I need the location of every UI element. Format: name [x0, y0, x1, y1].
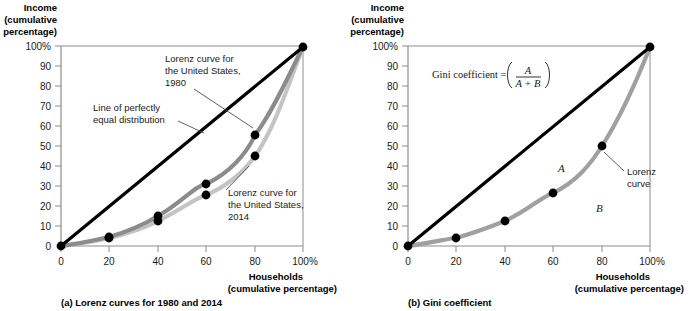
panel-a-y-tick-label: 30	[40, 181, 52, 192]
panel-a-lorenz-2014-annotation-line-1: Lorenz curve for	[228, 187, 297, 198]
data-point	[646, 43, 655, 52]
panel-a-y-tick-label: 60	[40, 121, 52, 132]
data-point	[299, 43, 308, 52]
data-point	[251, 131, 260, 140]
panel-b-y-tick-label: 30	[387, 181, 399, 192]
data-point	[154, 212, 163, 221]
panel-b-y-axis-title-line-2: (cumulative	[351, 14, 404, 25]
data-point	[105, 233, 114, 242]
panel-a-y-tick-label: 10	[40, 221, 52, 232]
panel-a-x-tick-label: 0	[58, 256, 64, 267]
panel-b-y-axis-title-line-1: Income	[371, 2, 404, 13]
panel-a-equality-annotation-line-1: Line of perfectly	[93, 102, 160, 113]
panel-b-y-tick-label: 0	[392, 241, 398, 252]
data-point	[549, 189, 558, 198]
data-point	[57, 242, 66, 251]
panel-a-y-axis-title-line-1: Income	[24, 2, 57, 13]
panel-b-x-tick-label: 100%	[639, 256, 665, 267]
panel-b-caption: (b) Gini coefficient	[408, 297, 492, 308]
panel-a-y-tick-label: 80	[40, 81, 52, 92]
panel-a-lorenz-1980-annotation-line-1: Lorenz curve for	[165, 53, 234, 64]
panel-a-y-tick-label: 70	[40, 101, 52, 112]
panel-a-y-tick-label: 20	[40, 201, 52, 212]
panel-a-x-axis-title-line-2: (cumulative percentage)	[228, 283, 337, 294]
panel-a-y-axis-title-line-2: (cumulative	[4, 14, 57, 25]
gini-formula-numerator: A	[524, 65, 532, 76]
panel-b-lorenz-annotation-line-2: curve	[627, 178, 650, 189]
panel-b-x-axis-title-line-1: Households	[596, 271, 650, 282]
panel-b-y-tick-label: 10	[387, 221, 399, 232]
panel-a-lorenz-1980-annotation-line-3: 1980	[165, 77, 186, 88]
panel-a-y-tick-label: 100%	[25, 41, 51, 52]
panel-b-x-axis-title-line-2: (cumulative percentage)	[575, 283, 684, 294]
panel-b-x-tick-label: 0	[405, 256, 411, 267]
lorenz-gini-figure: Income (cumulative percentage) 100% 90	[0, 0, 694, 311]
gini-formula-denominator: A + B	[515, 78, 542, 89]
panel-b-y-tick-label: 60	[387, 121, 399, 132]
panel-b-y-tick-label: 20	[387, 201, 399, 212]
panel-b-x-tick-label: 20	[450, 256, 462, 267]
data-point	[202, 191, 211, 200]
data-point	[202, 180, 211, 189]
panel-a-x-tick-label: 20	[103, 256, 115, 267]
data-point	[404, 242, 413, 251]
panel-b-y-tick-label: 70	[387, 101, 399, 112]
data-point	[251, 152, 260, 161]
panel-b-region-label-a: A	[557, 162, 565, 174]
panel-b-y-tick-label: 100%	[372, 41, 398, 52]
panel-b-x-tick-label: 80	[596, 256, 608, 267]
panel-b-y-tick-label: 80	[387, 81, 399, 92]
data-point	[598, 142, 607, 151]
panel-a-x-tick-label: 80	[249, 256, 261, 267]
panel-a-y-tick-label: 40	[40, 161, 52, 172]
gini-formula-label: Gini coefficient =	[432, 69, 507, 80]
panel-a-lorenz-1980-annotation-line-2: the United States,	[165, 65, 241, 76]
panel-a-y-tick-label: 90	[40, 61, 52, 72]
figure-canvas: Income (cumulative percentage) 100% 90	[0, 0, 694, 311]
panel-a-lorenz-2014-annotation-line-2: the United States,	[228, 199, 304, 210]
panel-b-x-tick-label: 40	[499, 256, 511, 267]
panel-b-lorenz-annotation-line-1: Lorenz	[627, 166, 656, 177]
panel-a-y-tick-label: 50	[40, 141, 52, 152]
panel-b-y-tick-label: 50	[387, 141, 399, 152]
panel-b-y-tick-label: 90	[387, 61, 399, 72]
panel-b-y-tick-label: 40	[387, 161, 399, 172]
panel-a-x-tick-label: 60	[200, 256, 212, 267]
panel-b-region-label-b: B	[596, 202, 603, 214]
panel-a-caption: (a) Lorenz curves for 1980 and 2014	[61, 297, 223, 308]
panel-a-x-tick-label: 40	[152, 256, 164, 267]
panel-a-equality-annotation-line-2: equal distribution	[93, 114, 165, 125]
data-point	[501, 217, 510, 226]
panel-a-lorenz-2014-annotation-line-3: 2014	[228, 211, 249, 222]
panel-a-x-axis-title-line-1: Households	[249, 271, 303, 282]
panel-b-y-axis-title-line-3: percentage)	[350, 26, 404, 37]
panel-b-x-tick-label: 60	[547, 256, 559, 267]
panel-a-y-tick-label: 0	[45, 241, 51, 252]
panel-a-x-tick-label: 100%	[292, 256, 318, 267]
data-point	[452, 234, 461, 243]
panel-a-y-axis-title-line-3: percentage)	[3, 26, 57, 37]
